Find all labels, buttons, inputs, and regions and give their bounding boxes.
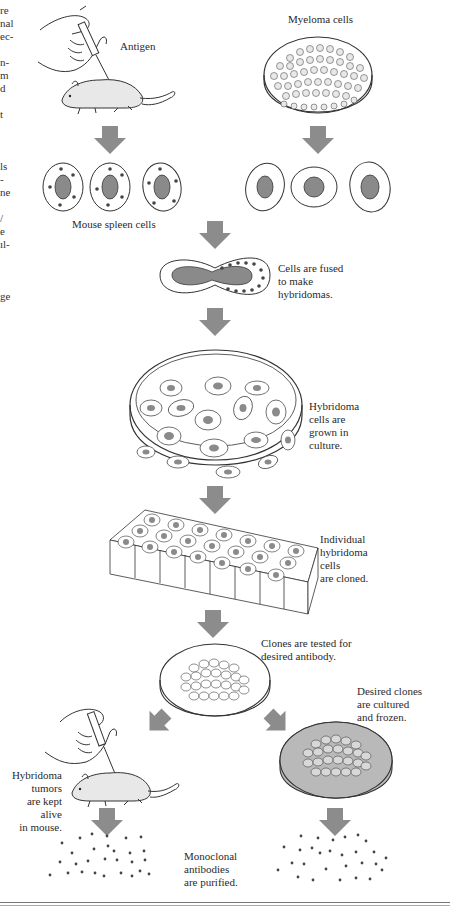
arrow-down-icon — [94, 126, 126, 154]
mouse-icon — [72, 773, 179, 807]
arrow-down-icon — [91, 808, 123, 836]
label-antigen: Antigen — [120, 40, 155, 53]
label-myeloma-cells: Myeloma cells — [288, 13, 353, 26]
antibody-particles-left — [49, 833, 151, 878]
syringe-hand-icon — [38, 6, 110, 82]
label-cells-fused: Cells are fused to make hybridomas. — [278, 262, 343, 301]
label-tumors-in-mouse: Hybridoma tumors are kept alive in mouse… — [6, 769, 62, 834]
arrow-down-icon — [199, 486, 231, 514]
label-antibodies-purified: Monoclonal antibodies are purified. — [184, 850, 238, 889]
antibody-particles-right — [277, 834, 388, 882]
arrow-down-left-icon — [140, 704, 177, 741]
myeloma-cells — [240, 159, 394, 215]
label-cells-cloned: Individual hybridoma cells are cloned. — [320, 533, 368, 585]
page-bottom-rule-secondary — [0, 905, 450, 906]
spleen-cells — [43, 160, 185, 214]
label-clones-tested: Clones are tested for desired antibody. — [261, 637, 352, 663]
arrow-down-icon — [197, 610, 229, 638]
syringe-hand-icon — [45, 709, 117, 776]
arrow-down-right-icon — [259, 704, 296, 741]
diagram-canvas — [0, 0, 450, 910]
arrow-down-icon — [302, 126, 334, 154]
hybridoma-culture-dish-icon — [130, 350, 302, 478]
mouse-icon — [62, 80, 175, 114]
arrow-down-icon — [199, 308, 231, 336]
test-clones-dish-icon — [160, 644, 270, 716]
well-plate-icon — [110, 510, 318, 614]
myeloma-dish-icon — [264, 37, 372, 113]
frozen-clones-dish-icon — [280, 722, 392, 798]
arrow-down-icon — [199, 221, 231, 249]
page-bottom-rule — [0, 902, 450, 903]
arrow-down-icon — [319, 808, 351, 836]
fused-hybridoma-cell-icon — [160, 258, 270, 294]
label-clones-frozen: Desired clones are cultured and frozen. — [357, 685, 422, 724]
label-mouse-spleen-cells: Mouse spleen cells — [72, 218, 156, 231]
label-hybridoma-grown: Hybridoma cells are grown in culture. — [309, 400, 359, 452]
